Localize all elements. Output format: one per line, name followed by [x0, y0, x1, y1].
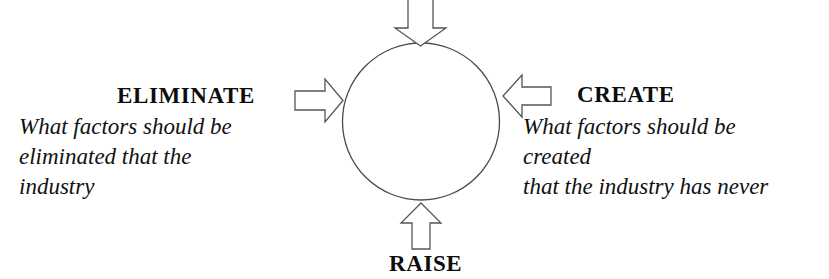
center-circle — [343, 43, 500, 200]
create-description: What factors should be created that the … — [523, 112, 768, 202]
create-heading: CREATE — [577, 83, 675, 106]
create-description-line-3: that the industry has never — [523, 172, 768, 202]
arrow-left-right-icon — [295, 79, 343, 122]
eliminate-description-line-2: eliminated that the — [19, 142, 232, 172]
create-description-line-2: created — [523, 142, 768, 172]
arrow-top-down-icon — [395, 0, 446, 46]
create-description-line-1: What factors should be — [523, 112, 768, 142]
eliminate-description-line-3: industry — [19, 172, 232, 202]
eliminate-heading: ELIMINATE — [117, 84, 255, 107]
diagram-canvas: ELIMINATE CREATE RAISE What factors shou… — [0, 0, 829, 279]
eliminate-description-line-1: What factors should be — [19, 112, 232, 142]
arrow-right-left-icon — [503, 75, 551, 117]
eliminate-description: What factors should be eliminated that t… — [19, 112, 232, 202]
raise-heading: RAISE — [389, 252, 462, 275]
arrow-bottom-up-icon — [401, 203, 441, 249]
